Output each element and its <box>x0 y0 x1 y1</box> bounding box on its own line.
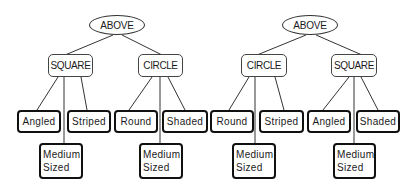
category-node-circle: CIRCLE <box>138 54 183 77</box>
leaf-label-line1: Medium <box>337 148 374 161</box>
leaf-label: Angled <box>23 116 56 127</box>
leaf-label-line2: Sized <box>236 161 263 174</box>
leaf-label: Striped <box>72 116 106 127</box>
leaf-label: Striped <box>265 116 299 127</box>
leaf-node-shaded: Shaded <box>356 110 400 133</box>
leaf-node-medium-sized: Medium Sized <box>232 143 276 179</box>
diagram-canvas: ABOVE SQUARE CIRCLE Angled Striped Mediu… <box>0 0 413 193</box>
leaf-label-line2: Sized <box>143 161 170 174</box>
leaf-node-striped: Striped <box>259 110 304 133</box>
leaf-node-round: Round <box>114 110 158 133</box>
leaf-node-round: Round <box>210 110 254 133</box>
category-node-circle: CIRCLE <box>241 54 287 77</box>
category-label: CIRCLE <box>143 60 177 71</box>
leaf-node-striped: Striped <box>67 110 111 133</box>
leaf-node-medium-sized: Medium Sized <box>39 143 83 179</box>
leaf-label: Shaded <box>360 116 396 127</box>
leaf-node-angled: Angled <box>307 110 351 133</box>
leaf-label: Angled <box>313 116 346 127</box>
leaf-label: Shaded <box>167 116 203 127</box>
leaf-label-line1: Medium <box>143 148 180 161</box>
leaf-label: Round <box>217 116 248 127</box>
category-label: SQUARE <box>51 60 91 71</box>
leaf-label-line1: Medium <box>43 148 80 161</box>
root-label: ABOVE <box>293 20 326 31</box>
category-node-square: SQUARE <box>48 54 93 77</box>
leaf-label-line1: Medium <box>236 148 273 161</box>
root-node-above: ABOVE <box>282 15 338 35</box>
root-node-above: ABOVE <box>89 15 145 35</box>
leaf-node-medium-sized: Medium Sized <box>333 143 376 179</box>
category-label: CIRCLE <box>247 60 281 71</box>
leaf-label-line2: Sized <box>337 161 364 174</box>
leaf-node-medium-sized: Medium Sized <box>139 143 183 179</box>
leaf-node-shaded: Shaded <box>162 110 208 133</box>
root-label: ABOVE <box>100 20 133 31</box>
category-label: SQUARE <box>334 60 374 71</box>
leaf-node-angled: Angled <box>17 110 61 133</box>
leaf-label: Round <box>121 116 152 127</box>
category-node-square: SQUARE <box>331 54 377 77</box>
leaf-label-line2: Sized <box>43 161 70 174</box>
